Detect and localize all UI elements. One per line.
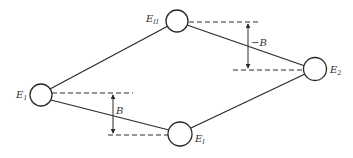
label-eii: EII [145,13,159,26]
edge-ei-e2 [191,74,305,128]
edge-e1-eii [50,26,168,89]
node-e2 [304,58,327,81]
label-e2: E2 [329,64,341,77]
edge-e1-ei [51,100,169,130]
label-e1: E1 [15,89,27,102]
node-e1 [30,84,52,106]
label-minus-b: −B [251,37,267,48]
label-ei: EI [194,133,205,146]
node-ei [168,122,192,146]
node-eii [166,10,188,32]
label-b: B [115,105,123,116]
energy-level-diagram: E1 EII EI E2 −B B [0,0,353,158]
edge-eii-e2 [187,25,305,66]
